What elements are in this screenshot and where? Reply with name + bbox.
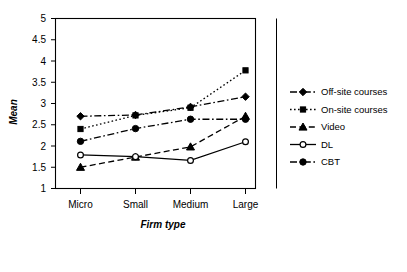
series-dl	[78, 139, 249, 164]
legend-item-cbt[interactable]: CBT	[290, 156, 340, 167]
y-tick-group-2: 2	[40, 141, 55, 152]
series-video	[77, 112, 250, 170]
series-layer	[77, 68, 250, 171]
line-chart-figure: 5 4.5 4 3.5 3 2.5	[0, 0, 407, 272]
x-tick-label: Medium	[173, 199, 209, 210]
legend-item-off-site-courses[interactable]: Off-site courses	[290, 86, 388, 97]
y-tick-label: 1.5	[32, 162, 46, 173]
y-tick-group-3: 3	[40, 98, 55, 109]
legend-item-video[interactable]: Video	[290, 121, 345, 132]
y-tick-group-4: 4	[40, 56, 55, 67]
x-tick-label: Small	[123, 199, 148, 210]
data-point-marker	[132, 125, 138, 131]
data-point-marker	[78, 126, 83, 131]
series-line	[81, 142, 246, 161]
series-line	[81, 97, 246, 117]
y-tick-label: 2	[40, 141, 46, 152]
legend-item-label: Video	[321, 121, 345, 132]
legend-item-label: DL	[321, 139, 333, 150]
legend-item-label: On-site courses	[321, 104, 388, 115]
data-point-marker	[77, 138, 83, 144]
data-point-marker	[187, 143, 195, 150]
series-line	[81, 70, 246, 129]
legend-item-on-site-courses[interactable]: On-site courses	[290, 104, 388, 115]
x-tick-group-micro: Micro	[68, 189, 93, 211]
y-tick-group-1: 1	[40, 183, 55, 194]
x-tick-group-large: Large	[233, 189, 259, 211]
data-point-marker	[188, 105, 193, 110]
x-axis-title: Firm type	[140, 219, 185, 230]
filled-circle-marker-icon	[300, 159, 306, 165]
y-tick-label: 5	[40, 13, 46, 24]
data-point-marker	[187, 116, 193, 122]
legend-item-label: CBT	[321, 156, 340, 167]
y-tick-label: 4	[40, 56, 46, 67]
x-tick-group-small: Small	[123, 189, 148, 211]
data-point-marker	[133, 154, 139, 160]
open-circle-marker-icon	[300, 142, 306, 148]
y-axis: 5 4.5 4 3.5 3 2.5	[32, 13, 55, 194]
data-point-marker	[243, 68, 248, 73]
y-tick-label: 2.5	[32, 119, 46, 130]
data-point-marker	[78, 152, 84, 158]
y-tick-label: 3.5	[32, 77, 46, 88]
chart-svg: 5 4.5 4 3.5 3 2.5	[0, 0, 407, 272]
x-tick-label: Large	[233, 199, 259, 210]
y-tick-group-4.5: 4.5	[32, 34, 55, 45]
x-tick-label: Micro	[68, 199, 93, 210]
y-tick-group-3.5: 3.5	[32, 77, 55, 88]
data-point-marker	[77, 113, 84, 120]
y-tick-group-5: 5	[40, 13, 55, 24]
data-point-marker	[133, 113, 138, 118]
data-point-marker	[242, 93, 249, 100]
series-off-site-courses	[77, 93, 249, 120]
plot-frame	[56, 19, 256, 189]
data-point-marker	[188, 158, 194, 164]
data-point-marker	[243, 139, 249, 145]
series-cbt	[77, 116, 248, 144]
x-tick-group-medium: Medium	[173, 189, 209, 211]
y-tick-group-1.5: 1.5	[32, 162, 55, 173]
y-tick-label: 3	[40, 98, 46, 109]
x-axis: Micro Small Medium Large	[68, 189, 258, 211]
y-tick-label: 4.5	[32, 34, 46, 45]
series-on-site-courses	[78, 68, 248, 132]
square-marker-icon	[300, 107, 305, 112]
chart-legend: Off-site coursesOn-site coursesVideoDLCB…	[290, 86, 388, 167]
diamond-marker-icon	[299, 88, 306, 95]
data-point-marker	[242, 116, 248, 122]
y-axis-title: Mean	[8, 99, 19, 125]
legend-item-dl[interactable]: DL	[290, 139, 333, 150]
legend-item-label: Off-site courses	[321, 86, 388, 97]
y-tick-group-2.5: 2.5	[32, 119, 55, 130]
y-tick-label: 1	[40, 183, 46, 194]
